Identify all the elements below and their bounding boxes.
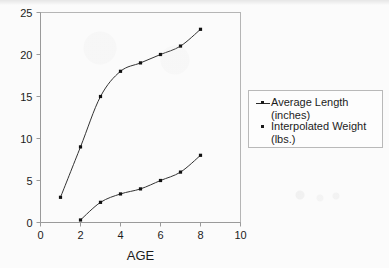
- x-tick-label-2: 2: [77, 229, 83, 241]
- legend-label-line1: Interpolated Weight: [271, 120, 366, 132]
- legend-label-average-length: Average Length (inches): [271, 96, 348, 121]
- x-tick-label-8: 8: [197, 229, 203, 241]
- data-point-s1-3: [139, 187, 142, 190]
- data-point-s0-3: [119, 70, 122, 73]
- data-point-s1-5: [179, 171, 182, 174]
- data-point-s0-7: [199, 28, 202, 31]
- data-point-s0-1: [79, 145, 82, 148]
- legend-label-interpolated-weight: Interpolated Weight (lbs.): [271, 120, 366, 145]
- data-point-s1-4: [159, 179, 162, 182]
- x-tick-label-4: 4: [117, 229, 123, 241]
- chart-legend: Average Length (inches) Interpolated Wei…: [248, 90, 383, 148]
- legend-item-average-length: Average Length (inches): [255, 96, 348, 121]
- x-tick-label-0: 0: [37, 229, 43, 241]
- data-point-s1-0: [79, 218, 82, 221]
- data-point-s0-0: [59, 196, 62, 199]
- data-point-s0-2: [99, 95, 102, 98]
- data-point-s0-6: [179, 45, 182, 48]
- x-axis-label: AGE: [127, 248, 155, 263]
- legend-item-interpolated-weight: Interpolated Weight (lbs.): [255, 120, 366, 145]
- data-point-s0-5: [159, 53, 162, 56]
- data-point-s0-4: [139, 61, 142, 64]
- y-tick-label-10: 10: [20, 133, 32, 145]
- data-point-s1-1: [99, 201, 102, 204]
- data-point-s1-6: [199, 154, 202, 157]
- legend-label-line2: (lbs.): [271, 133, 295, 145]
- legend-label-line2: (inches): [271, 109, 310, 121]
- data-point-s1-2: [119, 192, 122, 195]
- x-tick-label-6: 6: [157, 229, 163, 241]
- plot-area-border: [41, 13, 241, 223]
- y-tick-label-0: 0: [26, 217, 32, 229]
- y-tick-label-25: 25: [20, 7, 32, 19]
- chart-page: 02468100510152025AGE Average Length (inc…: [0, 0, 389, 268]
- y-tick-label-15: 15: [20, 91, 32, 103]
- legend-dot-marker-icon: [255, 121, 271, 134]
- legend-line-marker-icon: [255, 97, 271, 110]
- y-tick-label-5: 5: [26, 175, 32, 187]
- legend-label-line1: Average Length: [271, 96, 348, 108]
- y-tick-label-20: 20: [20, 49, 32, 61]
- x-tick-label-10: 10: [234, 229, 246, 241]
